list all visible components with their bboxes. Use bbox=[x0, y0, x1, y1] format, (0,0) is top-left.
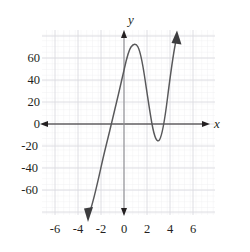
x-tick-label-neg6: -6 bbox=[44, 223, 66, 236]
x-tick-label-neg2: -2 bbox=[90, 223, 112, 236]
graph-figure: 60 40 20 0 -20 -40 -60 -6 -4 -2 0 2 4 6 … bbox=[0, 0, 250, 252]
y-tick-label-0: 0 bbox=[6, 118, 40, 131]
y-axis-label: y bbox=[128, 13, 134, 26]
y-tick-label-20: 20 bbox=[6, 96, 40, 109]
y-tick-label-neg40: -40 bbox=[4, 162, 38, 175]
x-axis-label: x bbox=[214, 117, 220, 130]
x-tick-label-neg4: -4 bbox=[67, 223, 89, 236]
x-tick-label-0: 0 bbox=[113, 223, 135, 236]
y-tick-label-40: 40 bbox=[6, 74, 40, 87]
x-tick-label-6: 6 bbox=[182, 223, 204, 236]
y-tick-label-neg60: -60 bbox=[4, 184, 38, 197]
y-tick-label-neg20: -20 bbox=[4, 140, 38, 153]
y-tick-label-60: 60 bbox=[6, 52, 40, 65]
x-tick-label-2: 2 bbox=[136, 223, 158, 236]
x-tick-label-4: 4 bbox=[159, 223, 181, 236]
